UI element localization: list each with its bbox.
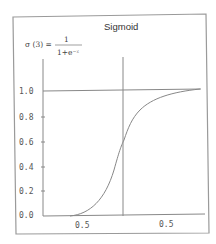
y-tick-label: 0.6 [19,138,34,147]
y-tick-label: 0.0 [19,211,34,220]
y-tick-label: 0.4 [19,163,34,172]
formula-numerator: 1 [64,35,69,44]
formula-denominator: 1+e⁻ᶻ [57,48,79,57]
sigmoid-chart: Sigmoid σ (3) = 1 1+e⁻ᶻ 1.0 0.8 0.6 0.4 … [0,0,216,244]
y-tick-label: 0.8 [19,113,34,122]
y-tick-label: 1.0 [19,87,34,96]
x-tick-label: 0.5 [159,220,174,229]
formula-lhs: σ (3) = [25,40,52,49]
y-tick-label: 0.2 [19,187,34,196]
chart-title: Sigmoid [104,21,138,32]
x-tick-label: 0.5 [75,221,90,230]
